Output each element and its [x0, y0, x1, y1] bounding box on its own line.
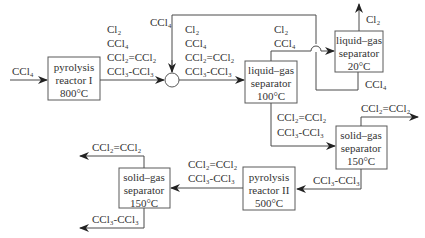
sg-right-top-arrow [361, 117, 418, 126]
sg-left-label-1: solid–gas [123, 171, 165, 183]
lg20-top-label: Cl₂ [366, 13, 380, 25]
sg-left-label-3: 150°C [130, 197, 158, 209]
mixer [165, 73, 179, 87]
sg-right-bottom-label: CCl₃-CCl₃ [313, 174, 360, 186]
lg100-label-1: liquid–gas [248, 64, 294, 76]
r1-out-ccl4: CCl₄ [107, 37, 129, 49]
lg20-label-3: 20°C [348, 60, 371, 72]
r1-out-c2cl4: CCl₂=CCl₂ [107, 51, 156, 63]
sg-right-label-2: separator [341, 142, 382, 154]
reactor1-label-2: reactor I [56, 74, 93, 86]
reactor2-label-2: reactor II [249, 184, 290, 196]
mix-out-cl2: Cl₂ [185, 23, 199, 35]
sg-left-label-2: separator [124, 184, 165, 196]
sg-right-label-3: 150°C [347, 155, 375, 167]
sg-left-top-arrow [80, 156, 144, 168]
sg-left-top-label: CCl₂=CCl₂ [92, 141, 141, 153]
mix-out-c2cl6: CCl₃-CCl₃ [185, 65, 232, 77]
r2-out-c2cl4: CCl₂=CCl₂ [188, 158, 237, 170]
sg-right-top-label: CCl₂=CCl₂ [361, 102, 410, 114]
feed-label: CCl₄ [12, 65, 34, 77]
lg100-bottom-arrow [271, 103, 335, 146]
lg20-label-1: liquid–gas [336, 34, 382, 46]
lg100-top-cl2: Cl₂ [274, 23, 288, 35]
lg100-bot-c2cl4: CCl₂=CCl₂ [277, 111, 326, 123]
mix-out-ccl4: CCl₄ [185, 37, 207, 49]
sg-left-bottom-label: CCl₃-CCl₃ [92, 213, 139, 225]
lg20-bottom-label: CCl₄ [365, 78, 387, 90]
lg20-label-2: separator [339, 47, 380, 59]
sg-right-label-1: solid–gas [340, 129, 382, 141]
reactor1-label-3: 800°C [60, 87, 88, 99]
process-flow-diagram: CCl₄ pyrolysis reactor I 800°C Cl₂ CCl₄ … [0, 0, 425, 238]
r2-out-c2cl6: CCl₃-CCl₃ [188, 172, 235, 184]
reactor1-label-1: pyrolysis [54, 61, 94, 73]
lg100-label-3: 100°C [257, 90, 285, 102]
lg100-label-2: separator [251, 77, 292, 89]
r1-out-c2cl6: CCl₃-CCl₃ [107, 65, 154, 77]
lg100-top-ccl4: CCl₄ [274, 37, 296, 49]
mix-out-c2cl4: CCl₂=CCl₂ [185, 51, 234, 63]
r1-out-cl2: Cl₂ [107, 23, 121, 35]
recycle-label: CCl₄ [150, 16, 172, 28]
reactor2-label-3: 500°C [255, 197, 283, 209]
reactor2-label-1: pyrolysis [249, 171, 289, 183]
lg100-bot-c2cl6: CCl₃-CCl₃ [277, 126, 324, 138]
